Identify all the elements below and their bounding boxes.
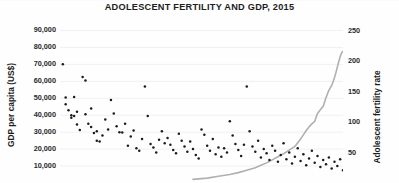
scatter-point	[263, 148, 266, 151]
scatter-point	[285, 158, 288, 161]
scatter-point	[149, 143, 152, 146]
scatter-point	[189, 140, 192, 143]
scatter-point	[186, 150, 189, 153]
scatter-point	[87, 122, 90, 125]
scatter-point	[90, 126, 93, 129]
scatter-point	[73, 96, 76, 99]
y-axis-right-tick-label: 100	[348, 118, 388, 125]
scatter-point	[144, 85, 147, 88]
scatter-point	[84, 113, 87, 116]
scatter-point	[279, 154, 282, 157]
scatter-point	[265, 152, 268, 155]
scatter-point	[93, 132, 96, 135]
scatter-point	[101, 134, 104, 137]
scatter-point	[231, 134, 234, 137]
scatter-point	[73, 115, 76, 118]
scatter-point	[158, 139, 161, 142]
chart-figure: ADOLESCENT FERTILITY AND GDP, 2015 10,00…	[0, 0, 399, 183]
scatter-point	[200, 128, 203, 131]
scatter-point	[138, 150, 141, 153]
scatter-point	[96, 139, 99, 142]
scatter-point	[316, 155, 319, 158]
scatter-point	[130, 135, 133, 138]
scatter-point	[115, 125, 118, 128]
scatter-point	[67, 109, 70, 112]
scatter-point	[98, 140, 101, 143]
scatter-point	[169, 144, 172, 147]
scatter-point	[110, 99, 113, 102]
scatter-point	[64, 103, 67, 106]
scatter-point	[141, 138, 144, 141]
scatter-point	[163, 142, 166, 145]
scatter-point	[319, 166, 322, 169]
y-axis-right-tick-label: 150	[348, 88, 388, 95]
scatter-point	[70, 117, 73, 120]
scatter-point	[212, 138, 215, 141]
scatter-point	[84, 79, 87, 82]
scatter-point	[229, 120, 232, 123]
scatter-point	[328, 156, 331, 159]
scatter-point	[121, 131, 124, 134]
scatter-point	[246, 85, 249, 88]
scatter-point	[113, 112, 116, 115]
scatter-point	[291, 162, 294, 165]
scatter-point	[209, 150, 212, 153]
scatter-point	[248, 130, 251, 133]
scatter-point	[342, 169, 343, 172]
scatter-point	[192, 148, 195, 151]
scatter-point	[271, 144, 274, 147]
y-axis-right-tick-label: 50	[348, 149, 388, 156]
scatter-point	[220, 155, 223, 158]
scatter-point	[197, 157, 200, 160]
scatter-point	[124, 122, 127, 125]
scatter-point	[180, 139, 183, 142]
scatter-point	[243, 144, 246, 147]
chart-title: ADOLESCENT FERTILITY AND GDP, 2015	[0, 2, 399, 12]
scatter-point	[223, 147, 226, 150]
scatter-point	[206, 144, 209, 147]
scatter-point	[302, 153, 305, 156]
scatter-point	[277, 161, 280, 164]
scatter-point	[146, 115, 149, 118]
scatter-point	[313, 161, 316, 164]
scatter-point	[81, 76, 84, 79]
y-axis-right-title: Adolescent fertility rate	[372, 52, 382, 182]
scatter-point	[104, 118, 107, 121]
scatter-point	[305, 164, 308, 167]
scatter-point	[161, 130, 164, 133]
scatter-point	[132, 129, 135, 132]
scatter-point	[155, 151, 158, 154]
scatter-point	[118, 131, 121, 134]
scatter-point	[70, 114, 73, 117]
scatter-point	[330, 167, 333, 170]
scatter-point	[226, 151, 229, 154]
plot-svg	[60, 22, 343, 183]
scatter-point	[175, 152, 178, 155]
scatter-point	[336, 165, 339, 168]
scatter-point	[322, 159, 325, 162]
scatter-point	[96, 130, 99, 133]
scatter-point	[64, 96, 67, 99]
plot-area	[60, 22, 343, 183]
y-axis-right-tick-label: 200	[348, 57, 388, 64]
scatter-point	[282, 142, 285, 145]
scatter-point	[76, 111, 79, 114]
y-axis-left-tick-label: 90,000	[0, 26, 56, 33]
scatter-point	[296, 147, 299, 150]
scatter-point	[333, 161, 336, 164]
scatter-point	[76, 123, 79, 126]
scatter-point	[203, 133, 206, 136]
scatter-point	[152, 146, 155, 149]
scatter-point	[325, 163, 328, 166]
scatter-point	[90, 107, 93, 110]
scatter-point	[311, 150, 314, 153]
scatter-point	[183, 145, 186, 148]
gdp-scatter-points	[62, 63, 343, 171]
scatter-point	[166, 137, 169, 140]
y-axis-left-title: GDP per capita (US$)	[6, 45, 16, 165]
scatter-point	[257, 139, 260, 142]
scatter-point	[214, 153, 217, 156]
scatter-point	[172, 149, 175, 152]
scatter-point	[178, 133, 181, 136]
scatter-point	[234, 143, 237, 146]
